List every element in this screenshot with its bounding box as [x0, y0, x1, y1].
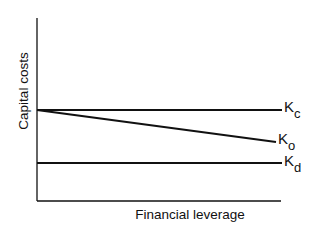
chart: Kc Ko Kd Financial leverage Capital cost…: [0, 0, 318, 234]
kd-label: Kd: [284, 152, 301, 175]
y-axis-label: Capital costs: [16, 52, 31, 130]
ko-label: Ko: [278, 130, 295, 153]
ko-line: [37, 110, 276, 142]
kc-label: Kc: [284, 98, 301, 121]
x-axis-label: Financial leverage: [135, 207, 245, 222]
